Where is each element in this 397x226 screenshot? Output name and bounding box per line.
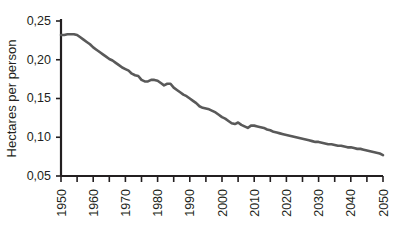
x-tick-label: 1960: [87, 189, 101, 217]
y-tick-label: 0,15: [27, 91, 51, 105]
hectares-per-person-line-chart: 0,050,100,150,200,25 1950196019701980199…: [0, 0, 397, 226]
x-tick-label: 1950: [55, 189, 69, 217]
x-tick-label: 2040: [344, 189, 358, 217]
y-axis-title: Hectares per person: [4, 40, 19, 158]
y-tick-label: 0,05: [27, 169, 51, 183]
x-axis-ticks: [61, 176, 383, 182]
y-tick-label: 0,20: [27, 53, 51, 67]
x-tick-label: 1990: [183, 189, 197, 217]
chart-container: 0,050,100,150,200,25 1950196019701980199…: [0, 0, 397, 226]
y-tick-label: 0,25: [27, 14, 51, 28]
x-tick-label: 2050: [377, 189, 391, 217]
x-tick-label: 2030: [312, 189, 326, 217]
x-tick-label: 1980: [151, 189, 165, 217]
x-tick-label: 2020: [280, 189, 294, 217]
x-tick-label: 2010: [248, 189, 262, 217]
x-tick-label: 1970: [119, 189, 133, 217]
y-tick-label: 0,10: [27, 130, 51, 144]
x-tick-label: 2000: [216, 189, 230, 217]
